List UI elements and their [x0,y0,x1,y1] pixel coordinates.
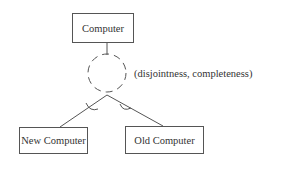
entity-computer: Computer [72,13,134,43]
entity-new-computer-label: New Computer [21,135,85,146]
entity-new-computer: New Computer [19,127,88,154]
child-connector-new [60,95,107,127]
specialization-circle [88,54,126,92]
entity-old-computer: Old Computer [125,126,204,154]
child-connector-old [107,95,163,126]
diagram-canvas: Computer (disjointness, completeness) Ne… [0,0,282,169]
subset-arc-new-icon [86,103,98,110]
entity-computer-label: Computer [82,23,124,34]
entity-old-computer-label: Old Computer [134,135,194,146]
constraint-label: (disjointness, completeness) [134,68,252,79]
